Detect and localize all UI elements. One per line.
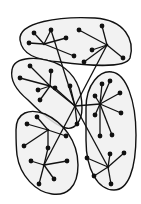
node-r7 [98, 134, 103, 139]
network-diagram [0, 0, 141, 204]
node-r13 [109, 182, 114, 187]
node-t1 [32, 31, 37, 36]
node-thub [106, 44, 109, 47]
node-t6 [77, 28, 82, 33]
node-t9 [82, 60, 87, 65]
node-l1 [28, 64, 33, 69]
node-t4 [64, 36, 69, 41]
node-b6 [29, 159, 34, 164]
node-b9 [52, 177, 57, 182]
node-l8 [75, 122, 80, 127]
node-r4 [118, 91, 123, 96]
node-l6 [38, 98, 43, 103]
node-bc2 [43, 164, 46, 167]
node-b1 [25, 122, 30, 127]
node-bc1 [47, 129, 50, 132]
node-rc2 [107, 166, 110, 169]
node-r9 [85, 156, 90, 161]
node-t7 [100, 24, 105, 29]
node-l7 [68, 84, 73, 89]
node-b5 [46, 146, 51, 151]
node-t8 [90, 48, 95, 53]
node-l4 [36, 88, 41, 93]
node-t2 [49, 28, 54, 33]
node-r2 [108, 79, 113, 84]
node-r6 [93, 113, 98, 118]
node-r11 [122, 151, 127, 156]
node-r3 [93, 94, 98, 99]
node-l5 [53, 86, 58, 91]
node-b7 [65, 159, 70, 164]
node-t5 [72, 54, 77, 59]
node-t3 [27, 41, 32, 46]
node-r1 [100, 82, 105, 87]
node-b2 [35, 115, 40, 120]
node-r12 [92, 174, 97, 179]
node-l2 [49, 69, 54, 74]
node-b8 [37, 182, 42, 187]
node-r8 [110, 133, 115, 138]
node-lc [49, 85, 52, 88]
node-l3 [18, 76, 23, 81]
node-hub [74, 105, 77, 108]
node-tc [43, 43, 46, 46]
node-t10 [121, 56, 126, 61]
diagram-svg [0, 0, 141, 204]
node-b3 [22, 144, 27, 149]
node-r10 [108, 152, 113, 157]
node-b4 [64, 134, 69, 139]
node-rc1 [99, 103, 102, 106]
node-r5 [119, 111, 124, 116]
